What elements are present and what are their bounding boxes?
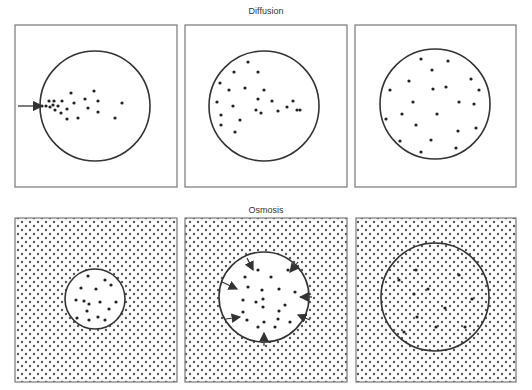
- solute-particle: [384, 117, 387, 120]
- solute-particle: [107, 307, 110, 310]
- osmosis-panel-small-cell: [15, 218, 177, 382]
- solute-particle: [261, 305, 264, 308]
- solute-particle: [388, 88, 391, 91]
- solute-particle: [83, 97, 86, 100]
- solute-particle: [463, 325, 466, 328]
- solute-particle: [85, 309, 88, 312]
- solute-particle: [238, 118, 241, 121]
- solute-particle: [412, 292, 415, 295]
- solute-particle: [472, 102, 475, 105]
- solute-particle: [219, 123, 222, 126]
- solute-particle: [276, 109, 279, 112]
- solute-particle: [431, 87, 434, 90]
- solute-particle: [470, 297, 473, 300]
- solute-particle: [477, 88, 480, 91]
- solute-particle: [219, 113, 222, 116]
- solute-particle: [286, 268, 289, 271]
- solute-particle: [454, 146, 457, 149]
- solute-particle: [94, 287, 97, 290]
- solute-particle: [113, 116, 116, 119]
- solute-particle: [435, 112, 438, 115]
- solute-particle: [414, 268, 417, 271]
- solute-particle: [96, 110, 99, 113]
- solute-particle: [457, 100, 460, 103]
- solute-particle: [291, 99, 294, 102]
- solute-particle: [120, 101, 123, 104]
- solute-particle: [434, 325, 437, 328]
- solute-particle: [298, 108, 301, 111]
- solute-particle: [86, 274, 89, 277]
- solute-particle: [400, 112, 403, 115]
- solute-particle: [270, 99, 273, 102]
- solute-particle: [65, 117, 68, 120]
- solute-particle: [232, 70, 235, 73]
- diffusion-osmosis-diagram: [0, 0, 532, 390]
- solute-particle: [96, 315, 99, 318]
- diffusion-panel-initial: [15, 25, 177, 187]
- solute-particle: [44, 104, 47, 107]
- solute-particle: [269, 275, 272, 278]
- solute-particle: [218, 81, 221, 84]
- solute-particle: [74, 298, 77, 301]
- solute-particle: [411, 100, 414, 103]
- solute-particle: [243, 275, 246, 278]
- solute-particle: [283, 303, 286, 306]
- solute-particle: [92, 89, 95, 92]
- solute-particle: [256, 325, 259, 328]
- solute-particle: [245, 318, 248, 321]
- solute-particle: [256, 268, 259, 271]
- solute-particle: [414, 123, 417, 126]
- solute-particle: [231, 104, 234, 107]
- solute-particle: [446, 59, 449, 62]
- solute-particle: [402, 330, 405, 333]
- solute-particle: [261, 297, 264, 300]
- solute-particle: [87, 318, 90, 321]
- solute-particle: [273, 325, 276, 328]
- solute-particle: [114, 300, 117, 303]
- solute-particle: [429, 138, 432, 141]
- solute-particle: [215, 100, 218, 103]
- osmosis-row: [15, 218, 516, 382]
- solute-particle: [254, 300, 257, 303]
- solute-particle: [419, 150, 422, 153]
- diffusion-panel-spreading: [185, 25, 347, 187]
- solute-particle: [256, 97, 259, 100]
- solute-particle: [56, 104, 59, 107]
- osmosis-panel-swollen-cell: [356, 218, 516, 382]
- solute-particle: [407, 79, 410, 82]
- solute-particle: [469, 77, 472, 80]
- solute-particle: [109, 283, 112, 286]
- solute-particle: [444, 85, 447, 88]
- solute-particle: [398, 139, 401, 142]
- solute-particle: [256, 70, 259, 73]
- solute-particle: [262, 320, 265, 323]
- solute-particle: [96, 99, 99, 102]
- solute-particle: [233, 130, 236, 133]
- solute-particle: [103, 318, 106, 321]
- solute-particle: [456, 129, 459, 132]
- solute-particle: [65, 107, 68, 110]
- solute-particle: [430, 68, 433, 71]
- solute-particle: [474, 126, 477, 129]
- solute-particle: [246, 285, 249, 288]
- solute-particle: [260, 288, 263, 291]
- diffusion-panel-equilibrium: [355, 25, 516, 187]
- solute-particle: [254, 108, 257, 111]
- solute-particle: [288, 320, 291, 323]
- solute-particle: [246, 60, 249, 63]
- solute-particle: [48, 105, 51, 108]
- solute-particle: [415, 315, 418, 318]
- solute-particle: [295, 108, 298, 111]
- solute-particle: [259, 111, 262, 114]
- solute-particle: [227, 88, 230, 91]
- solute-particle: [60, 99, 63, 102]
- solute-particle: [277, 287, 280, 290]
- solute-particle: [262, 88, 265, 91]
- solute-particle: [51, 103, 54, 106]
- solute-particle: [443, 306, 446, 309]
- solute-particle: [419, 57, 422, 60]
- solute-particle: [75, 316, 78, 319]
- solute-particle: [79, 286, 82, 289]
- solute-particle: [72, 101, 75, 104]
- solute-particle: [76, 116, 79, 119]
